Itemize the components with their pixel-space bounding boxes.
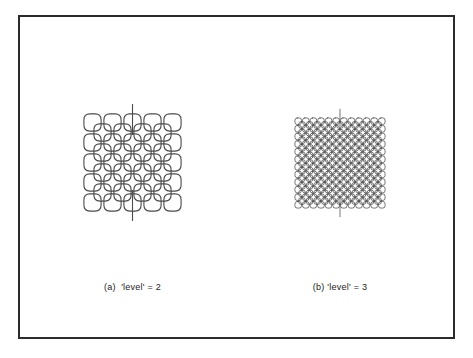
curve-cell <box>371 201 378 208</box>
curve-cell <box>306 121 313 128</box>
curve-cell <box>363 171 370 178</box>
curve-cell <box>84 174 101 191</box>
curve-cell <box>337 129 344 136</box>
curve-cell <box>379 171 386 178</box>
curve-cell <box>306 182 313 189</box>
curve-cell <box>367 152 374 159</box>
panel-level-2: (a) 'level' = 2 <box>30 17 235 337</box>
space-filling-curve-level-3 <box>250 61 430 265</box>
curve-cell <box>363 155 370 162</box>
panel-level-3: (b) 'level' = 3 <box>235 17 445 337</box>
curve-cell <box>356 171 363 178</box>
curve-cell <box>299 197 306 204</box>
curve-cell <box>371 117 378 124</box>
curve-cell <box>348 148 355 155</box>
curve-cell <box>341 186 348 193</box>
curve-cell <box>325 133 332 140</box>
curve-cell <box>367 167 374 174</box>
curve-cell <box>306 167 313 174</box>
curve-cell <box>371 133 378 140</box>
curve-cell <box>371 125 378 132</box>
curve-cell <box>303 133 310 140</box>
curve-cell <box>303 155 310 162</box>
curve-cell <box>375 152 382 159</box>
curve-cell <box>344 190 351 197</box>
curve-cell <box>295 171 302 178</box>
curve-cell <box>360 197 367 204</box>
curve-cell <box>356 125 363 132</box>
curve-cell <box>144 194 161 211</box>
curve-cell <box>352 121 359 128</box>
curve-cell <box>144 134 161 151</box>
curve-cell <box>371 155 378 162</box>
curve-cell <box>337 136 344 143</box>
curve-cell <box>325 178 332 185</box>
curve-cell <box>379 133 386 140</box>
curve-cell <box>306 136 313 143</box>
curve-cell <box>325 193 332 200</box>
curve-cell <box>144 174 161 191</box>
curve-cell <box>371 148 378 155</box>
curve-cell <box>164 174 181 191</box>
curve-cell <box>322 136 329 143</box>
curve-cell <box>322 190 329 197</box>
curve-cell <box>299 190 306 197</box>
curve-cell <box>154 144 171 161</box>
curve-cell <box>299 144 306 151</box>
curve-cell <box>360 152 367 159</box>
curve-cell <box>164 154 181 171</box>
caption-level-3: (b) 'level' = 3 <box>235 282 445 292</box>
curve-cell <box>344 152 351 159</box>
curve-cell <box>379 186 386 193</box>
curve-cell <box>379 140 386 147</box>
curve-cell <box>348 171 355 178</box>
curve-cell <box>134 184 151 201</box>
curve-cell <box>352 144 359 151</box>
curve-cell <box>333 140 340 147</box>
curve-cell <box>310 171 317 178</box>
curve-cell <box>325 117 332 124</box>
curve-cell <box>295 140 302 147</box>
curve-cell <box>314 136 321 143</box>
curve-cell <box>318 148 325 155</box>
curve-cell <box>356 186 363 193</box>
curve-cell <box>371 193 378 200</box>
curve-cell <box>375 182 382 189</box>
curve-cell <box>310 186 317 193</box>
curve-cell <box>104 134 121 151</box>
curve-cell <box>352 197 359 204</box>
curve-cell <box>344 174 351 181</box>
curve-cell <box>360 167 367 174</box>
curve-cell <box>329 182 336 189</box>
curve-cell <box>360 121 367 128</box>
curve-cell <box>134 164 151 181</box>
curve-cell <box>84 114 101 131</box>
curve-cell <box>114 144 131 161</box>
curve-cell <box>295 178 302 185</box>
curve-cell <box>379 117 386 124</box>
curve-cell <box>341 193 348 200</box>
curve-cell <box>367 121 374 128</box>
curve-cell <box>303 163 310 170</box>
curve-cell <box>299 167 306 174</box>
curve-cell <box>367 190 374 197</box>
curve-cell <box>348 140 355 147</box>
figure-frame: (a) 'level' = 2 (b) 'level' = 3 <box>18 15 455 339</box>
curve-cell <box>299 121 306 128</box>
curve-cell <box>363 163 370 170</box>
curve-holder-b <box>235 65 445 260</box>
curve-cell <box>325 171 332 178</box>
curve-cell <box>94 164 111 181</box>
curve-cell <box>356 117 363 124</box>
curve-cell <box>348 117 355 124</box>
curve-cell <box>356 193 363 200</box>
curve-cell <box>303 125 310 132</box>
curve-cell <box>124 154 141 171</box>
curve-cell <box>314 129 321 136</box>
curve-cell <box>352 159 359 166</box>
curve-cell <box>344 121 351 128</box>
curve-cell <box>295 117 302 124</box>
curve-cell <box>164 134 181 151</box>
curve-cell <box>104 194 121 211</box>
curve-cell <box>94 124 111 141</box>
